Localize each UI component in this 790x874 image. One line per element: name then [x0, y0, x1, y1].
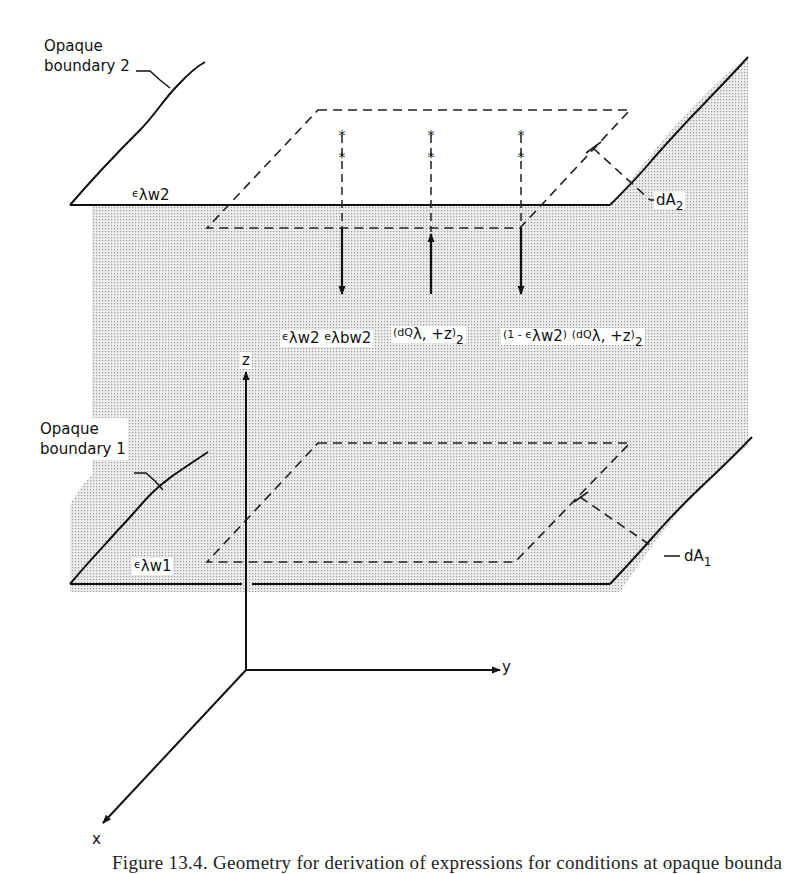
label-incident-flux: (dQλ, +z)2 — [391, 326, 466, 343]
x-axis-arrow — [103, 670, 246, 823]
label-opaque-boundary-2: Opaque boundary 2 — [44, 36, 130, 76]
label-reflected-flux: (1 - ϵλw2) (dQλ, +z)2 — [501, 328, 645, 345]
label-opaque-boundary-1: Opaque boundary 1 — [38, 418, 128, 460]
boundary-2-left-edge — [70, 62, 205, 205]
label-emissivity-w2: ϵλw2 — [132, 188, 169, 203]
svg-text:*: * — [518, 127, 525, 143]
label-axis-y: y — [502, 660, 511, 675]
label-emissivity-w1: ϵλw1 — [132, 558, 173, 575]
label-emitted-flux: ϵλw2 eλbw2 — [280, 330, 373, 347]
svg-text:*: * — [339, 149, 346, 165]
participating-medium-region — [70, 57, 748, 592]
figure-caption: Figure 13.4. Geometry for derivation of … — [112, 852, 782, 874]
label-dA2: dA2 — [654, 192, 685, 209]
label-axis-x: x — [92, 832, 101, 847]
svg-text:*: * — [339, 127, 346, 143]
label-dA1: dA1 — [682, 548, 713, 565]
svg-text:*: * — [428, 127, 435, 143]
svg-text:*: * — [518, 149, 525, 165]
asterisk-markers: ** ** ** — [339, 127, 525, 165]
label-axis-z: z — [240, 352, 252, 369]
svg-text:*: * — [428, 149, 435, 165]
